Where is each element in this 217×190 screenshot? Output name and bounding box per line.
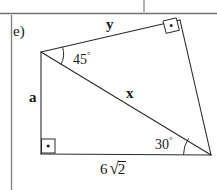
angle-30-value: 30: [155, 137, 169, 152]
problem-label: e): [13, 24, 25, 39]
base-side-label: 6√2: [100, 160, 126, 177]
angle-45-degree-symbol: °: [87, 50, 91, 60]
side-right-line: [180, 20, 211, 155]
diagonal-x-line: [41, 52, 211, 155]
side-label-y: y: [106, 17, 114, 32]
side-base-line: [41, 154, 211, 155]
diagonal-label-x: x: [126, 86, 134, 101]
base-coefficient: 6: [100, 161, 108, 177]
angle-45-value: 45: [73, 52, 87, 67]
angle-label-45: 45°: [73, 51, 91, 67]
right-angle-top-right-marker: [163, 18, 179, 33]
square-root-symbol: √2: [108, 160, 127, 177]
figure-page: e) y x a 45° 30° 6√2: [0, 0, 217, 190]
angle-30-degree-symbol: °: [169, 135, 173, 145]
angle-45-arc: [61, 47, 64, 65]
radicand-value: 2: [118, 161, 127, 177]
angle-label-30: 30°: [155, 136, 173, 152]
side-label-a: a: [29, 90, 37, 105]
right-angle-bottom-left-marker: [42, 139, 56, 153]
